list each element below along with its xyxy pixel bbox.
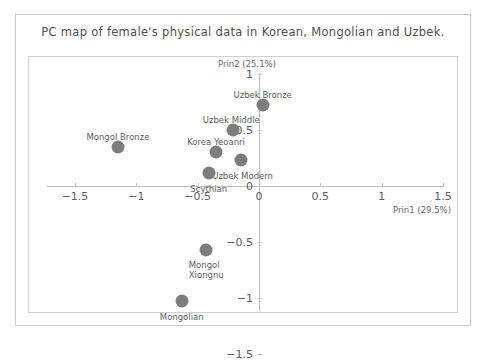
y-tick-label: 1 bbox=[217, 68, 253, 81]
plot-frame: −1.5−1−0.500.511.5 10.50−0.5−1−1.5 Prin2… bbox=[28, 56, 458, 313]
x-tick-label: 0 bbox=[256, 190, 263, 203]
x-tick-mark bbox=[136, 183, 137, 187]
plot-area: −1.5−1−0.500.511.5 10.50−0.5−1−1.5 Prin2… bbox=[29, 57, 457, 312]
data-point-uzbek-modern[interactable] bbox=[234, 154, 247, 167]
data-point-scythian[interactable] bbox=[202, 166, 215, 179]
point-label-line: Mongolian bbox=[160, 312, 204, 322]
y-tick-label: −1 bbox=[217, 292, 253, 305]
x-tick-mark bbox=[75, 183, 76, 187]
x-tick-label: −1.5 bbox=[62, 190, 89, 203]
x-tick-label: −1 bbox=[128, 190, 144, 203]
chart-title: PC map of female's physical data in Kore… bbox=[16, 25, 470, 39]
data-point-mongol-xiongnu[interactable] bbox=[200, 243, 213, 256]
data-point-uzbek-middle[interactable] bbox=[227, 124, 240, 137]
y-tick-mark bbox=[258, 74, 262, 75]
y-tick-mark bbox=[258, 298, 262, 299]
y-tick-mark bbox=[258, 130, 262, 131]
figure-frame: PC map of female's physical data in Kore… bbox=[15, 14, 471, 326]
point-label-line: Scythian bbox=[190, 184, 227, 194]
point-label-line: Uzbek Bronze bbox=[233, 90, 291, 100]
x-tick-mark bbox=[443, 183, 444, 187]
point-label-mongolian: Mongolian bbox=[160, 312, 204, 322]
y-axis-title: Prin2 (25.1%) bbox=[218, 59, 276, 69]
point-label-line: Uzbek Modern bbox=[212, 171, 273, 181]
point-label-mongol-bronze: Mongol Bronze bbox=[86, 132, 149, 142]
point-label-line: Uzbek Middle bbox=[203, 115, 260, 125]
data-point-korea-yeoanri[interactable] bbox=[210, 146, 223, 159]
point-label-scythian: Scythian bbox=[190, 184, 227, 194]
point-label-uzbek-middle: Uzbek Middle bbox=[203, 115, 260, 125]
y-tick-mark bbox=[258, 354, 262, 355]
x-axis-title: Prin1 (29.5%) bbox=[393, 205, 451, 215]
x-tick-mark bbox=[320, 183, 321, 187]
data-point-mongolian[interactable] bbox=[175, 295, 188, 308]
x-tick-label: 0.5 bbox=[312, 190, 330, 203]
data-point-uzbek-bronze[interactable] bbox=[256, 99, 269, 112]
point-label-uzbek-bronze: Uzbek Bronze bbox=[233, 90, 291, 100]
y-tick-label: −1.5 bbox=[217, 348, 253, 361]
point-label-mongol-xiongnu: MongolXiongnu bbox=[189, 260, 224, 280]
y-tick-label: −0.5 bbox=[217, 236, 253, 249]
point-label-line: Korea Yeoanri bbox=[187, 137, 245, 147]
point-label-uzbek-modern: Uzbek Modern bbox=[212, 171, 273, 181]
x-tick-label: 1 bbox=[378, 190, 385, 203]
y-tick-mark bbox=[258, 242, 262, 243]
point-label-korea-yeoanri: Korea Yeoanri bbox=[187, 137, 245, 147]
data-point-mongol-bronze[interactable] bbox=[111, 140, 124, 153]
point-label-line: Xiongnu bbox=[189, 270, 224, 280]
x-tick-mark bbox=[382, 183, 383, 187]
point-label-line: Mongol Bronze bbox=[86, 132, 149, 142]
point-label-line: Mongol bbox=[189, 260, 224, 270]
x-tick-label: 1.5 bbox=[434, 190, 452, 203]
